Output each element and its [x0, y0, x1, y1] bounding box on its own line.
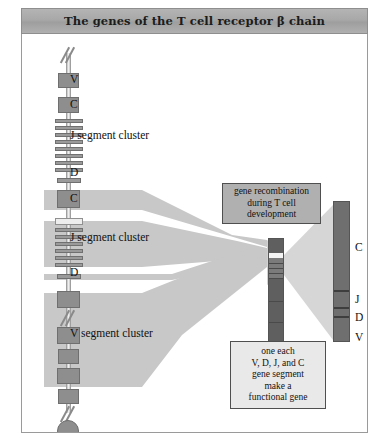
j-segment-tick	[55, 154, 83, 158]
label-v-top: V	[70, 73, 78, 85]
label-d-2: D	[70, 266, 78, 278]
recombination-callout: gene recombination during T cell develop…	[222, 183, 321, 224]
diagram-root: The genes of the T cell receptor β chain	[0, 0, 389, 446]
gene-box-v-cluster	[58, 389, 79, 404]
chromosome-break-v1	[57, 310, 79, 326]
band-fan-right	[284, 205, 333, 340]
recombination-line-1: gene recombination	[234, 186, 309, 198]
j-segment-tick	[55, 256, 83, 260]
label-j-cluster-2: J segment cluster	[70, 231, 149, 243]
d-segment-tick	[57, 178, 81, 183]
final-label-v: V	[355, 331, 363, 343]
j-segment-tick	[55, 249, 83, 253]
j-segment-tick	[55, 119, 83, 123]
rearranged-locus-bar	[268, 238, 284, 343]
gene-box-v-cluster	[58, 349, 79, 364]
functional-line-5: functional gene	[249, 392, 308, 404]
functional-line-1: one each	[261, 346, 295, 358]
final-label-j: J	[355, 293, 359, 305]
label-d-1: D	[70, 166, 78, 178]
diagram-title-bar: The genes of the T cell receptor β chain	[21, 8, 368, 34]
gene-box-v-cluster	[57, 291, 80, 308]
diagram-canvas: V C J segment cluster D C J segment clus…	[22, 35, 367, 432]
chromosome-break-top	[57, 47, 79, 63]
segment-divider-d-v	[334, 316, 349, 318]
label-c-mid: C	[70, 192, 78, 204]
segment-divider-c-j	[334, 290, 349, 292]
functional-gene-bar	[333, 201, 350, 342]
page-title: The genes of the T cell receptor β chain	[64, 14, 325, 28]
recombination-line-3: development	[247, 209, 296, 221]
label-v-cluster: V segment cluster	[70, 327, 153, 339]
j-segment-tick	[55, 161, 83, 165]
j-segment-tick-light	[55, 218, 83, 225]
functional-line-2: V, D, J, and C	[252, 358, 305, 370]
recombination-line-2: during T cell	[247, 198, 296, 210]
j-segment-tick	[55, 168, 83, 172]
label-j-cluster-1: J segment cluster	[70, 129, 149, 141]
label-c-top: C	[70, 98, 78, 110]
j-segment-tick	[55, 147, 83, 151]
final-label-d: D	[355, 311, 363, 323]
j-segment-tick	[55, 263, 83, 267]
segment-divider-j-d	[334, 307, 349, 309]
functional-line-4: make a	[264, 381, 291, 393]
gene-box-v-cluster	[57, 368, 80, 384]
final-label-c: C	[355, 241, 363, 253]
functional-gene-callout: one each V, D, J, and C gene segment mak…	[230, 341, 326, 409]
functional-line-3: gene segment	[252, 369, 304, 381]
